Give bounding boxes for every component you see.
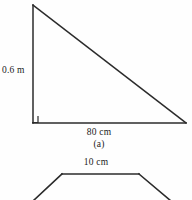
trapezoid-shape [33, 174, 171, 200]
trapezoid-right-slant [139, 174, 171, 200]
figure-caption-a: (a) [0, 140, 192, 150]
right-triangle-shape [33, 5, 186, 123]
top-edge-dimension-label: 10 cm [0, 158, 192, 168]
figure-drawing [0, 0, 192, 200]
trapezoid-left-slant [33, 174, 62, 200]
base-dimension-label: 80 cm [0, 128, 192, 138]
height-dimension-label: 0.6 m [2, 66, 25, 76]
triangle-hypotenuse [33, 5, 186, 123]
geometry-figure: 0.6 m 80 cm (a) 10 cm [0, 0, 192, 200]
